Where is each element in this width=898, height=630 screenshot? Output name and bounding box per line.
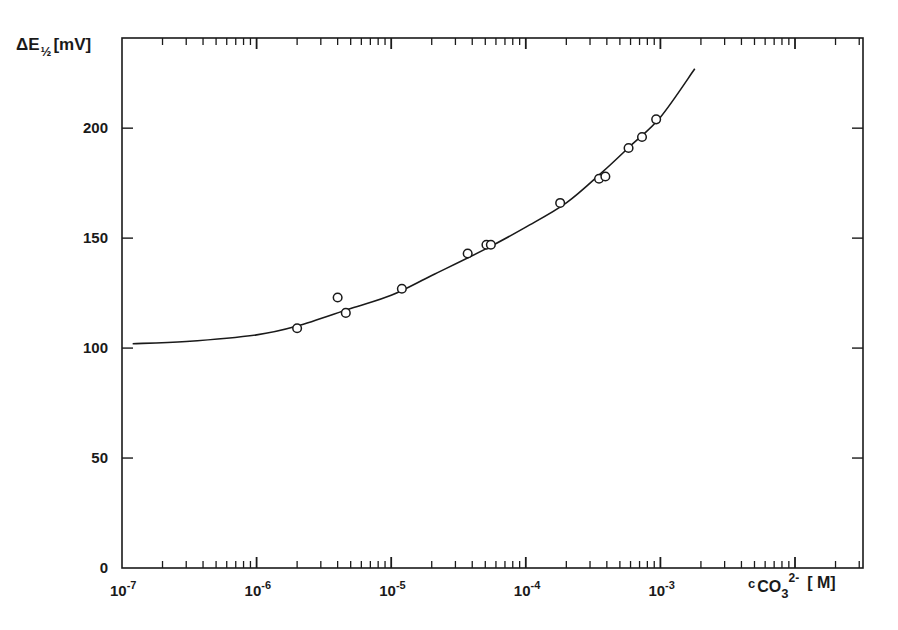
y-tick-label: 100 [83,339,108,356]
plot-border [122,38,863,568]
y-tick-label: 0 [100,559,108,576]
data-point-marker [333,293,342,302]
data-point-marker [556,199,565,208]
chart: 050100150200 10-710-610-510-410-3 ΔE½[mV… [0,0,898,630]
y-tick-label: 200 [83,119,108,136]
data-point-marker [638,133,647,142]
y-tick-label: 50 [91,449,108,466]
data-point-marker [398,284,407,293]
x-tick-label: 10-6 [245,579,271,599]
data-point-marker [293,324,302,333]
x-tick-label: 10-5 [379,579,405,599]
data-point-marker [624,144,633,153]
data-point-marker [342,309,351,318]
data-point-marker [487,240,496,249]
x-tick-labels: 10-710-610-510-410-3 [110,579,675,599]
y-tick-label: 150 [83,229,108,246]
plot-frame [122,38,863,568]
x-tick-label: 10-4 [514,579,541,599]
x-tick-label: 10-3 [648,579,674,599]
x-axis-title: cCO32-[ M] [748,571,836,601]
data-point-marker [652,115,661,124]
axis-ticks [122,38,863,568]
fit-line [133,69,695,344]
y-tick-labels: 050100150200 [83,119,108,576]
y-axis-title: ΔE½[mV] [16,35,91,59]
x-tick-label: 10-7 [110,579,136,599]
fit-curve [133,69,695,344]
data-points [293,115,661,333]
data-point-marker [601,172,610,181]
data-point-marker [463,249,472,258]
